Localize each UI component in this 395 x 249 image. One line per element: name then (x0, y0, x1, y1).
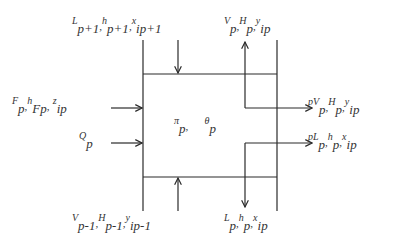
label-liquid-sidedraw: pLp,hp,xip (308, 134, 357, 147)
label-heat-in: Qp (79, 133, 93, 146)
label-stage-pressure-temperature: πp, θp (174, 118, 216, 131)
label-vapor-in-bottom: Vp-1,Hp-1,yip-1 (72, 215, 151, 228)
label-vapor-sidedraw: pVp,Hp,yip (308, 99, 359, 112)
label-feed-in: Fp,hFp, zip (12, 98, 67, 111)
label-liquid-in-top: Lp+1,hp+1,xip+1 (72, 18, 161, 31)
label-vapor-out-top: Vp,Hp,yip (224, 18, 270, 31)
label-liquid-out-bottom: Lp,hp,xip (224, 215, 268, 228)
